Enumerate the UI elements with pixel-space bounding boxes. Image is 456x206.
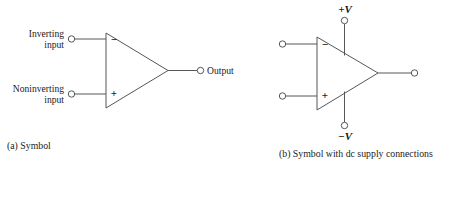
panel-b-inverting-input-terminal[interactable] [279,41,285,47]
panel-b-positive-supply-label-text: +V [338,3,352,15]
panel-a-caption: (a) Symbol [7,140,51,151]
panel-a-noninverting-input-label-line1: Noninverting [0,83,64,94]
panel-b-negative-supply-label-text: −V [338,130,352,142]
panel-b-negative-supply-terminal[interactable] [341,122,347,128]
panel-a-noninverting-input-terminal[interactable] [68,91,74,97]
panel-b-caption: (b) Symbol with dc supply connections [279,148,433,159]
panel-a-inverting-input-terminal[interactable] [68,36,74,42]
panel-b-noninverting-sign: + [322,89,328,101]
panel-a-inverting-input-label: Inverting input [0,28,64,50]
panel-a-output-label: Output [207,65,234,76]
panel-a-noninverting-sign: + [111,87,117,99]
panel-b-opamp: − + [279,17,417,128]
panel-a-inverting-input-label-line1: Inverting [0,28,64,39]
panel-a-output-terminal[interactable] [197,67,203,73]
panel-b-output-terminal[interactable] [411,70,417,76]
panel-a-opamp: − + [68,33,203,108]
opamp-schematic-svg: − + − + [0,0,456,206]
panel-a-inverting-input-label-line2: input [0,39,64,50]
panel-a-noninverting-input-label: Noninverting input [0,83,64,105]
panel-b-positive-supply-terminal[interactable] [341,17,347,23]
panel-b-positive-supply-label: +V [325,3,365,15]
panel-b-inverting-sign: − [322,38,328,50]
panel-a-inverting-sign: − [111,33,117,45]
panel-b-negative-supply-label: −V [325,130,365,142]
panel-a-output-label-text: Output [207,65,234,76]
figure-root: − + − + [0,0,456,206]
panel-b-noninverting-input-terminal[interactable] [279,93,285,99]
panel-a-noninverting-input-label-line2: input [0,94,64,105]
